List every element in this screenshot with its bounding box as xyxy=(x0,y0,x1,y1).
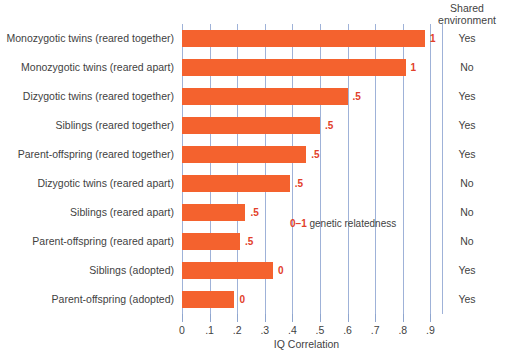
shared-environment-column-header: Shared environment xyxy=(424,2,510,26)
shared-environment-value: No xyxy=(424,169,510,198)
table-row: Siblings (adopted)0Yes xyxy=(0,256,512,285)
genetic-relatedness-value: .5 xyxy=(250,198,258,227)
bar xyxy=(182,146,306,163)
x-axis-tick xyxy=(375,314,376,322)
shared-environment-value: Yes xyxy=(424,82,510,111)
x-axis-tick-label: .1 xyxy=(197,324,223,336)
bar xyxy=(182,262,273,279)
row-label: Siblings (reared apart) xyxy=(0,198,174,227)
table-row: Siblings (reared apart).5No xyxy=(0,198,512,227)
row-label: Monozygotic twins (reared together) xyxy=(0,24,174,53)
x-axis-tick xyxy=(210,314,211,322)
x-axis-tick-label: .3 xyxy=(252,324,278,336)
x-axis-tick xyxy=(182,314,183,322)
x-axis-tick xyxy=(430,314,431,322)
genetic-relatedness-value: 0 xyxy=(239,285,245,314)
shared-environment-value: Yes xyxy=(424,256,510,285)
x-axis-tick xyxy=(403,314,404,322)
x-axis-tick xyxy=(348,314,349,322)
genetic-relatedness-value: .5 xyxy=(325,111,333,140)
genetic-relatedness-value: .5 xyxy=(311,140,319,169)
annotation-text: genetic relatedness xyxy=(307,218,397,229)
table-row: Dizygotic twins (reared apart).5No xyxy=(0,169,512,198)
table-row: Monozygotic twins (reared together)1Yes xyxy=(0,24,512,53)
bar xyxy=(182,117,320,134)
shared-environment-header-line1: Shared xyxy=(424,2,510,14)
row-label: Parent-offspring (reared apart) xyxy=(0,227,174,256)
x-axis-tick-label: .4 xyxy=(279,324,305,336)
x-axis-tick-label: .7 xyxy=(362,324,388,336)
shared-environment-value: Yes xyxy=(424,24,510,53)
shared-environment-value: No xyxy=(424,198,510,227)
row-label: Siblings (reared together) xyxy=(0,111,174,140)
bar xyxy=(182,59,406,76)
shared-environment-value: No xyxy=(424,53,510,82)
x-axis-tick xyxy=(237,314,238,322)
bar xyxy=(182,175,290,192)
row-label: Parent-offspring (reared together) xyxy=(0,140,174,169)
table-row: Siblings (reared together).5Yes xyxy=(0,111,512,140)
x-axis-title: IQ Correlation xyxy=(182,338,431,350)
x-axis-tick-label: .6 xyxy=(335,324,361,336)
x-axis-tick-label: .8 xyxy=(390,324,416,336)
x-axis-tick xyxy=(265,314,266,322)
genetic-relatedness-annotation: 0–1 genetic relatedness xyxy=(290,218,396,229)
shared-environment-value: Yes xyxy=(424,140,510,169)
x-axis-tick-label: 0 xyxy=(169,324,195,336)
bar xyxy=(182,88,348,105)
genetic-relatedness-value: 0 xyxy=(278,256,284,285)
x-axis-tick-label: .9 xyxy=(417,324,443,336)
bar xyxy=(182,291,234,308)
genetic-relatedness-value: .5 xyxy=(245,227,253,256)
table-row: Parent-offspring (adopted)0Yes xyxy=(0,285,512,314)
bar xyxy=(182,204,245,221)
x-axis-tick xyxy=(320,314,321,322)
row-label: Dizygotic twins (reared together) xyxy=(0,82,174,111)
row-label: Monozygotic twins (reared apart) xyxy=(0,53,174,82)
table-row: Parent-offspring (reared apart).5No xyxy=(0,227,512,256)
row-label: Siblings (adopted) xyxy=(0,256,174,285)
bar xyxy=(182,30,425,47)
shared-environment-value: Yes xyxy=(424,111,510,140)
x-axis-tick-label: .2 xyxy=(224,324,250,336)
x-axis-tick-label: .5 xyxy=(307,324,333,336)
table-row: Parent-offspring (reared together).5Yes xyxy=(0,140,512,169)
table-row: Monozygotic twins (reared apart)1No xyxy=(0,53,512,82)
genetic-relatedness-value: .5 xyxy=(295,169,303,198)
row-label: Dizygotic twins (reared apart) xyxy=(0,169,174,198)
iq-correlation-chart: Shared environment Monozygotic twins (re… xyxy=(0,0,512,359)
bar xyxy=(182,233,240,250)
row-label: Parent-offspring (adopted) xyxy=(0,285,174,314)
x-axis-tick xyxy=(292,314,293,322)
shared-environment-value: Yes xyxy=(424,285,510,314)
shared-environment-value: No xyxy=(424,227,510,256)
genetic-relatedness-value: 1 xyxy=(411,53,417,82)
table-row: Dizygotic twins (reared together).5Yes xyxy=(0,82,512,111)
genetic-relatedness-value: .5 xyxy=(353,82,361,111)
